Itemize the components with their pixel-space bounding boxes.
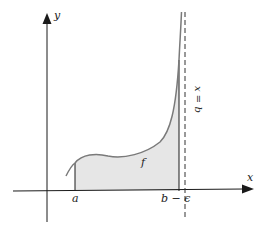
asymptote-label: x = b [193, 86, 204, 113]
x-axis-label: x [247, 171, 254, 184]
y-axis-arrow-icon [43, 13, 52, 24]
improper-integral-diagram: y x a b − ϵ f x = b [0, 0, 260, 226]
x-axis-arrow-icon [242, 185, 254, 194]
lower-limit-label: a [72, 192, 79, 205]
y-axis-label: y [53, 9, 61, 22]
shaded-area [75, 60, 179, 191]
upper-limit-label: b − ϵ [161, 192, 190, 205]
